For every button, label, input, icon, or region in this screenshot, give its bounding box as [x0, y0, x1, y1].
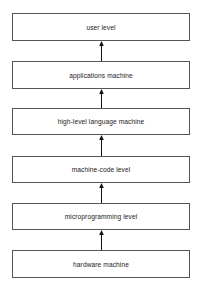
level-box-user-level: user level	[12, 13, 190, 41]
level-label: user level	[86, 24, 115, 31]
level-box-applications-machine: applications machine	[12, 61, 190, 89]
level-box-hardware-machine: hardware machine	[12, 250, 190, 278]
arrow-up-icon	[99, 89, 104, 108]
level-label: machine-code level	[72, 166, 131, 173]
level-label: applications machine	[69, 72, 133, 79]
arrow-up-icon	[99, 183, 104, 203]
arrow-up-icon	[99, 230, 104, 250]
level-label: high-level language machine	[58, 118, 145, 125]
level-box-microprogramming-level: microprogramming level	[12, 203, 190, 230]
arrow-up-icon	[99, 135, 104, 156]
level-box-high-level-language-machine: high-level language machine	[12, 108, 190, 135]
level-label: hardware machine	[73, 261, 129, 268]
machine-levels-diagram: user level applications machine high-lev…	[0, 0, 203, 293]
level-label: microprogramming level	[65, 213, 138, 220]
level-box-machine-code-level: machine-code level	[12, 156, 190, 183]
arrow-up-icon	[99, 41, 104, 61]
